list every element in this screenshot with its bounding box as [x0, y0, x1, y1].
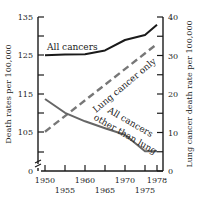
left-tick-label: 105	[18, 128, 33, 137]
right-axis-tick-labels: 010203040	[168, 13, 178, 176]
right-tick-label: 20	[168, 90, 178, 99]
right-axis: 010203040 Lung cancer death rate per 100…	[157, 13, 194, 176]
x-tick-label: 1978	[147, 176, 167, 185]
label-all-cancers: All cancers	[46, 42, 98, 52]
right-tick-label: 30	[168, 52, 178, 61]
right-tick-label: 0	[168, 167, 173, 176]
left-tick-label: 115	[18, 90, 33, 99]
left-axis-tick-labels: 0105115125135	[18, 13, 33, 176]
x-tick-label: 1965	[95, 186, 115, 195]
left-axis: 0105115125135 Death rates per 100,000	[4, 13, 44, 176]
left-tick-label: 125	[18, 51, 33, 60]
x-tick-label: 1955	[55, 186, 75, 195]
x-axis-ticks	[45, 165, 157, 171]
death-rates-chart: 0105115125135 Death rates per 100,000 01…	[0, 0, 198, 203]
right-axis-title: Lung cancer death rate per 100,000	[185, 20, 194, 167]
x-tick-label: 1975	[135, 186, 155, 195]
x-tick-label: 1950	[35, 176, 55, 185]
x-axis: 1950196019701978195519651975	[35, 165, 167, 195]
x-tick-label: 1960	[75, 176, 95, 185]
x-axis-tick-labels: 1950196019701978195519651975	[35, 176, 167, 195]
right-tick-label: 10	[168, 129, 178, 138]
x-tick-label: 1970	[115, 176, 135, 185]
label-lung-cancer-only: Lung cancer only	[91, 55, 159, 114]
left-tick-label: 135	[18, 13, 33, 22]
right-tick-label: 40	[168, 13, 178, 22]
left-tick-label: 0	[28, 167, 33, 176]
left-axis-ticks	[38, 17, 44, 152]
left-axis-title: Death rates per 100,000	[4, 44, 13, 143]
